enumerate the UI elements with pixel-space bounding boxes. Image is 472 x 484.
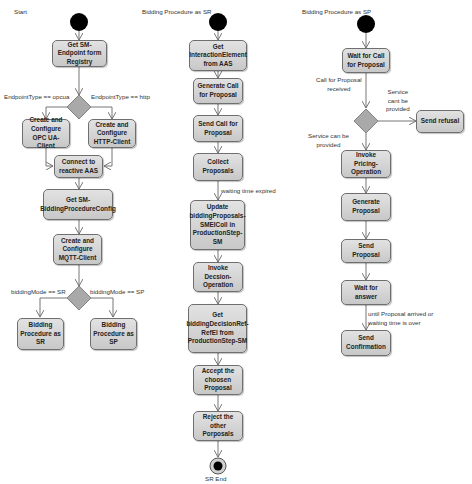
lane-title-sp: Bidding Procedure as SP (302, 8, 371, 17)
guard-cfp-received: Call for Proposal received (316, 76, 362, 93)
action-wait-for-answer: Wait for answer (341, 280, 391, 305)
action-bidding-procedure-sp: Bidding Procedure as SP (90, 318, 137, 350)
action-get-sm-bidding-config: Get SM-BiddingProcedureConfig (43, 189, 113, 220)
guard-endpoint-http: EndpointType == http (91, 93, 150, 102)
action-get-sm-endpoint: Get SM-Endpoint form Registry (52, 40, 107, 67)
action-send-confirmation: Send Confirmation (341, 330, 391, 356)
action-reject-proposals: Reject the other Porposals (193, 411, 243, 441)
action-wait-for-cfp: Wait for Call for Proposal (342, 48, 390, 73)
action-bidding-procedure-sr: Bidding Procedure as SR (17, 318, 64, 350)
action-invoke-pricing: Invoke Pricing-Operation (341, 150, 391, 178)
end-label-sr: SR End (205, 475, 226, 484)
guard-endpoint-opcua: EndpointType == opcua (4, 93, 69, 102)
action-send-refusal: Send refusal (416, 110, 464, 133)
guard-bidding-mode-sp: biddingMode == SP (90, 288, 144, 297)
edge (91, 107, 112, 119)
action-configure-opcua-client: Create and Configure OPC UA-Client (22, 119, 70, 148)
decision-diamond-icon (67, 286, 91, 310)
action-send-proposal: Send Proposal (341, 239, 391, 263)
lane-title-start: Start (14, 8, 27, 17)
edge (91, 298, 113, 317)
edge (104, 147, 112, 166)
end-node-center-icon (214, 462, 223, 471)
action-configure-mqtt-client: Create and Configure MQTT-Client (53, 234, 102, 265)
guard-service-can-be-provided: Service can be provided (308, 132, 349, 149)
action-get-bidding-decision-ref: Get biddingDecisionRef-RefEl from Produc… (188, 304, 247, 353)
action-invoke-decision: Invoke Decsion-Operation (193, 262, 243, 292)
action-send-cfp: Send Call for Proposal (193, 115, 243, 142)
action-generate-proposal: Generate Proposal (341, 193, 391, 221)
action-get-interaction-element: Get InteractionElement from AAS (189, 40, 247, 71)
action-connect-reactive-aas: Connect to reactive AAS (54, 155, 103, 178)
activity-diagram: Start Get SM-Endpoint form Registry Endp… (0, 0, 472, 484)
guard-bidding-mode-sr: biddingMode == SR (11, 288, 66, 297)
start-node-icon (70, 13, 88, 31)
action-configure-http-client: Create and Configure HTTP-Client (88, 119, 136, 148)
action-update-bidding-proposals: Update biddingProposals-SMEIColl in Prod… (190, 200, 245, 250)
action-collect-proposals: Collect Proposals (193, 153, 243, 181)
guard-waiting-time-expired: waiting time expired (221, 187, 276, 196)
decision-diamond-icon (67, 95, 91, 119)
start-node-icon (209, 13, 227, 31)
guard-service-cant-be-provided: Service cant be provided (386, 88, 410, 114)
action-accept-proposal: Accept the choosen Proposal (193, 365, 243, 395)
start-node-icon (357, 15, 375, 33)
guard-until-proposal-arrived: until Proposal arrived or waiting time i… (368, 310, 433, 327)
lane-title-sr: Bidding Procedure as SR (142, 8, 211, 17)
action-generate-cfp: Generate Call for Proposal (193, 78, 243, 104)
decision-diamond-icon (354, 109, 378, 133)
edge (40, 298, 67, 317)
